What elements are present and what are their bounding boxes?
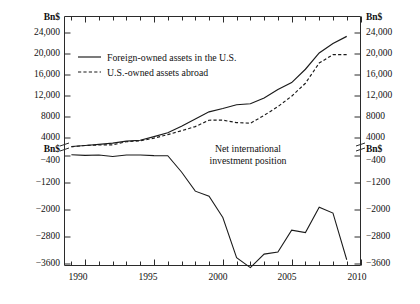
y-tick-left-minus3600: −3600	[8, 259, 60, 269]
y-tick-left-16000: 16,000	[8, 70, 60, 80]
x-tick-2010: 2010	[333, 273, 381, 283]
x-tick-2000: 2000	[194, 273, 242, 283]
y-tick-left-20000: 20,000	[8, 49, 60, 59]
y-tick-left-12000: 12,000	[8, 91, 60, 101]
y-axis-unit-right-upper: Bn$	[366, 13, 416, 23]
y-tick-right-24000: 24,000	[366, 28, 418, 38]
y-axis-unit-right-lower: Bn$	[366, 145, 416, 155]
y-axis-unit-left-upper: Bn$	[12, 13, 60, 23]
y-tick-left-minus2800: −2800	[8, 232, 60, 242]
legend-swatches	[78, 57, 101, 72]
y-tick-right-8000: 8000	[366, 112, 418, 122]
y-tick-right-minus3600: −3600	[366, 259, 418, 269]
y-tick-left-4000: 4000	[8, 133, 60, 143]
x-tick-1995: 1995	[124, 273, 172, 283]
legend-label-us-owned-assets-abroad: U.S.-owned assets abroad	[107, 67, 208, 78]
y-axis-ticks-right	[355, 33, 361, 264]
legend-label-foreign-owned-assets: Foreign-owned assets in the U.S.	[107, 52, 237, 63]
y-tick-left-8000: 8000	[8, 112, 60, 122]
y-tick-left-24000: 24,000	[8, 28, 60, 38]
x-tick-2005: 2005	[263, 273, 311, 283]
y-tick-left-minus1200: −1200	[8, 178, 60, 188]
y-tick-left-minus400: −400	[8, 156, 60, 166]
y-tick-right-minus400: −400	[366, 156, 418, 166]
y-tick-right-4000: 4000	[366, 133, 418, 143]
annotation-niip-line2: investment position	[188, 155, 308, 167]
y-tick-right-20000: 20,000	[366, 49, 418, 59]
y-tick-right-minus2000: −2000	[366, 205, 418, 215]
annotation-niip-line1: Net international	[188, 143, 308, 155]
series-net-international-investment-position	[71, 155, 346, 268]
y-tick-right-12000: 12,000	[366, 91, 418, 101]
y-tick-right-16000: 16,000	[366, 70, 418, 80]
y-axis-unit-left-lower: Bn$	[12, 145, 60, 155]
y-tick-left-minus2000: −2000	[8, 205, 60, 215]
chart-figure: Bn$ 24,000 20,000 16,000 12,000 8000 400…	[0, 0, 420, 304]
y-tick-right-minus1200: −1200	[366, 178, 418, 188]
x-tick-1990: 1990	[54, 273, 102, 283]
y-tick-right-minus2800: −2800	[366, 232, 418, 242]
